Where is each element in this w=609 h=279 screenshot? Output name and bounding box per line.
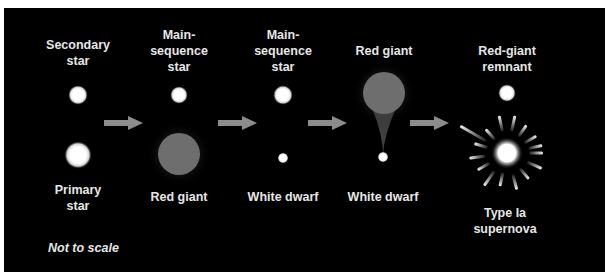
stage-5-bottom-label: Type Ia supernova (473, 205, 536, 237)
red-giant-icon (352, 61, 416, 155)
stage-2-bottom-label: Red giant (151, 189, 208, 205)
stage-1-bottom-label: Primary star (55, 182, 102, 214)
supernova-icon (459, 116, 543, 191)
secondary-star-icon (68, 85, 88, 105)
stage-4-bottom-label: White dwarf (348, 189, 419, 205)
arrow-icon (218, 116, 257, 130)
main-sequence-star-icon (273, 85, 293, 105)
stage-3-bottom-label: White dwarf (248, 189, 319, 205)
red-giant-icon (147, 122, 211, 186)
white-dwarf-icon (278, 153, 289, 164)
stage-4-top-label: Red giant (356, 43, 413, 59)
stage-3-top-label: Main- sequence star (254, 27, 312, 75)
red-giant-remnant-icon (498, 84, 516, 102)
arrow-icon (104, 116, 143, 130)
arrow-icon (410, 116, 449, 130)
stage-2-top-label: Main- sequence star (150, 27, 208, 75)
stage-1-top-label: Secondary star (46, 37, 110, 69)
primary-star-icon (64, 141, 92, 169)
stage-5-top-label: Red-giant remnant (478, 43, 536, 75)
main-sequence-star-icon (170, 86, 188, 104)
arrow-icon (308, 116, 347, 130)
white-dwarf-icon (378, 152, 389, 163)
scale-note: Not to scale (48, 240, 119, 256)
